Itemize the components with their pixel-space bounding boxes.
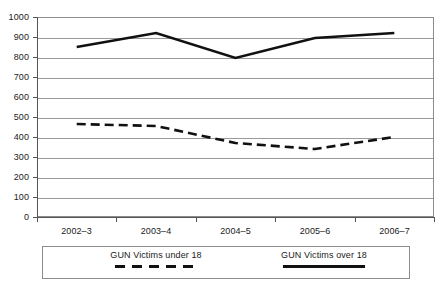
y-tick-1000 [33, 17, 37, 18]
x-axis-label-2005-6: 2005–6 [275, 226, 355, 236]
y-tick-100 [33, 197, 37, 198]
y-tick-500 [33, 117, 37, 118]
x-axis [37, 217, 435, 218]
x-tick-4 [355, 218, 356, 222]
y-tick-200 [33, 177, 37, 178]
y-axis-label-300: 300 [1, 153, 29, 162]
y-axis-label-900: 900 [1, 33, 29, 42]
y-axis-label-500: 500 [1, 113, 29, 122]
y-tick-400 [33, 137, 37, 138]
legend-entry-under-18: GUN Victims under 18 [71, 250, 241, 268]
y-axis-label-1000: 1000 [1, 13, 29, 22]
legend-swatch-dashed [115, 265, 197, 268]
gridline-100 [38, 198, 433, 199]
gridline-300 [38, 158, 433, 159]
gridline-500 [38, 118, 433, 119]
plot-area [37, 17, 434, 217]
gridline-700 [38, 78, 433, 79]
gridline-400 [38, 138, 433, 139]
x-axis-label-2003-4: 2003–4 [116, 226, 196, 236]
gridline-800 [38, 58, 433, 59]
y-axis-label-400: 400 [1, 133, 29, 142]
legend: GUN Victims under 18 GUN Victims over 18 [42, 246, 410, 279]
x-tick-1 [116, 218, 117, 222]
y-axis-label-0: 0 [1, 213, 29, 222]
x-tick-2 [196, 218, 197, 222]
x-tick-5 [434, 218, 435, 222]
gridline-600 [38, 98, 433, 99]
y-tick-800 [33, 57, 37, 58]
y-axis-label-100: 100 [1, 193, 29, 202]
legend-label-under-18: GUN Victims under 18 [71, 250, 241, 261]
x-axis-label-2004-5: 2004–5 [196, 226, 275, 236]
y-axis-label-800: 800 [1, 53, 29, 62]
gridline-200 [38, 178, 433, 179]
gridline-900 [38, 38, 433, 39]
x-tick-3 [275, 218, 276, 222]
line-chart: 1000 900 800 700 600 500 400 300 200 100… [0, 0, 446, 292]
x-tick-0 [37, 218, 38, 222]
y-tick-900 [33, 37, 37, 38]
y-axis-label-600: 600 [1, 93, 29, 102]
legend-swatch-solid [283, 265, 365, 268]
legend-entry-over-18: GUN Victims over 18 [239, 250, 409, 268]
y-axis-label-700: 700 [1, 73, 29, 82]
y-tick-600 [33, 97, 37, 98]
y-tick-700 [33, 77, 37, 78]
y-tick-300 [33, 157, 37, 158]
x-axis-label-2006-7: 2006–7 [355, 226, 434, 236]
x-axis-label-2002-3: 2002–3 [37, 226, 116, 236]
y-axis-label-200: 200 [1, 173, 29, 182]
y-axis [37, 17, 38, 218]
legend-label-over-18: GUN Victims over 18 [239, 250, 409, 261]
